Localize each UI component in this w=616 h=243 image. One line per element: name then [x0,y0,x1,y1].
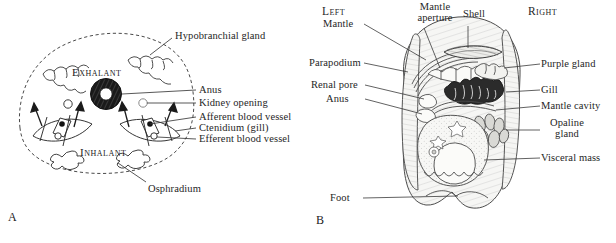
flow-arrow-left-outer [31,103,42,126]
label-purple-gland: Purple gland [541,58,596,69]
label-mantle-aperture-line1: Mantle [420,1,450,12]
afferent-vessel-node-left [59,121,65,127]
label-osphradium: Osphradium [148,183,201,194]
label-ctenidium-gill: Ctenidium (gill) [199,122,269,133]
label-shell: Shell [463,8,485,19]
orientation-label-right: Right [528,6,557,17]
orientation-label-left: Left [322,6,345,17]
label-mantle: Mantle [323,18,353,29]
ctenidium-left [33,115,92,146]
efferent-vessel-node-left [55,133,61,139]
label-gill: Gill [541,84,558,95]
label-opaline-gland: Opaline gland [541,118,593,139]
leader-parapodium [364,63,408,72]
leader-anus [122,90,196,94]
label-efferent-blood-vessel: Efferent blood vessel [199,133,290,144]
hypobranchial-gland-right [128,56,173,84]
kidney-opening-right [139,99,147,107]
leader-ctenidium [175,128,196,131]
panel-letter-a: A [8,210,17,225]
label-visceral-mass: Visceral mass [541,152,600,163]
label-renal-pore: Renal pore [311,79,358,90]
leader-hypobranchial-gland [150,38,172,55]
renal-pore-papilla [419,94,437,108]
kidney-opening-left [64,100,72,108]
label-mantle-aperture-line2: aperture [417,12,452,23]
label-kidney-opening: Kidney opening [199,97,268,108]
label-mantle-aperture: Mantle aperture [412,2,458,23]
label-afferent-blood-vessel: Afferent blood vessel [199,111,291,122]
ctenidium-right [120,115,180,146]
osphradium-left [50,151,84,170]
label-anus-b: Anus [326,93,349,104]
anatomy-figure: Exhalant Inhalant Hypobranchial gland An… [0,0,616,243]
leader-afferent-blood-vessel [150,117,196,124]
label-parapodium: Parapodium [309,57,361,68]
gill-organ [444,77,503,104]
efferent-vessel-node-right [151,133,157,139]
label-opaline-gland-line1: Opaline [550,117,584,128]
flow-label-inhalant: Inhalant [80,146,126,158]
flow-arrow-right-outer [165,103,177,126]
anus-ring [91,79,122,110]
label-mantle-cavity: Mantle cavity [541,100,600,111]
label-hypobranchial-gland: Hypobranchial gland [175,30,265,41]
panel-letter-b: B [316,213,324,228]
label-foot: Foot [330,192,350,203]
flow-label-exhalant: Exhalant [72,66,121,78]
visceral-mass [418,115,489,186]
label-anus: Anus [199,84,222,95]
label-opaline-gland-line2: gland [555,128,579,139]
